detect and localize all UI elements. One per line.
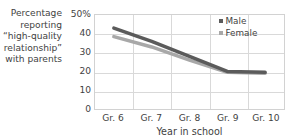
legend-swatch-icon bbox=[219, 19, 223, 23]
legend-item-male: Male bbox=[219, 16, 257, 26]
y-axis-title: Percentage reporting “high-quality relat… bbox=[0, 8, 62, 66]
y-tick-label: 10 bbox=[63, 86, 91, 95]
legend-label: Male bbox=[226, 16, 247, 26]
x-axis-title: Year in school bbox=[94, 126, 285, 137]
y-axis-tick-labels: 50% 40 30 20 10 0 bbox=[60, 0, 91, 140]
legend-item-female: Female bbox=[219, 28, 257, 38]
y-tick-label: 0 bbox=[63, 105, 91, 114]
y-axis-title-line: “high-quality bbox=[0, 31, 62, 43]
x-tick-label: Gr. 10 bbox=[247, 113, 285, 127]
y-tick-label: 50% bbox=[63, 10, 91, 19]
y-axis-title-line: reporting bbox=[0, 20, 62, 32]
y-tick-label: 30 bbox=[63, 48, 91, 57]
legend-label: Female bbox=[226, 28, 258, 38]
y-axis-title-line: relationship” bbox=[0, 43, 62, 55]
y-axis-title-line: with parents bbox=[0, 54, 62, 66]
line-chart: Percentage reporting “high-quality relat… bbox=[0, 0, 301, 140]
y-axis-title-line: Percentage bbox=[0, 8, 62, 20]
legend-swatch-icon bbox=[219, 31, 223, 35]
y-tick-label: 20 bbox=[63, 67, 91, 76]
x-tick-label: Gr. 6 bbox=[94, 113, 132, 127]
legend: Male Female bbox=[219, 16, 257, 38]
x-tick-label: Gr. 9 bbox=[209, 113, 247, 127]
x-tick-label: Gr. 8 bbox=[170, 113, 208, 127]
x-tick-label: Gr. 7 bbox=[132, 113, 170, 127]
x-axis-tick-labels: Gr. 6 Gr. 7 Gr. 8 Gr. 9 Gr. 10 bbox=[94, 113, 285, 127]
y-tick-label: 40 bbox=[63, 29, 91, 38]
